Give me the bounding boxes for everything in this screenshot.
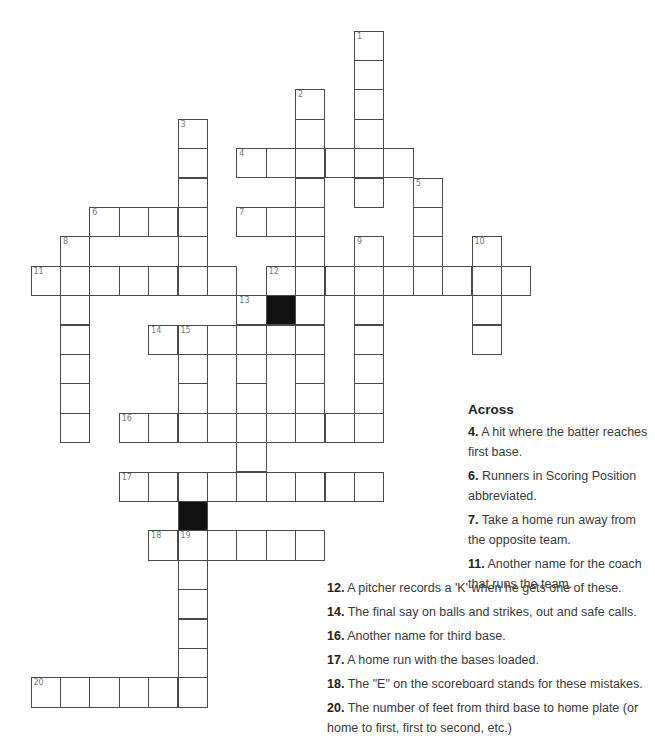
grid-cell[interactable] xyxy=(207,266,237,296)
grid-cell[interactable] xyxy=(236,530,266,560)
grid-cell[interactable] xyxy=(383,148,413,178)
grid-cell[interactable] xyxy=(178,619,208,649)
grid-cell[interactable] xyxy=(295,325,325,355)
grid-cell[interactable]: 11 xyxy=(31,266,61,296)
grid-cell[interactable] xyxy=(354,119,384,149)
grid-cell[interactable] xyxy=(178,354,208,384)
grid-cell[interactable]: 12 xyxy=(266,266,296,296)
grid-cell[interactable] xyxy=(236,442,266,472)
grid-cell[interactable] xyxy=(178,589,208,619)
grid-cell[interactable] xyxy=(295,354,325,384)
grid-cell[interactable] xyxy=(354,472,384,502)
grid-cell[interactable]: 16 xyxy=(119,413,149,443)
grid-cell[interactable] xyxy=(60,383,90,413)
grid-cell[interactable] xyxy=(266,325,296,355)
grid-cell[interactable] xyxy=(266,472,296,502)
grid-cell[interactable] xyxy=(236,383,266,413)
grid-cell[interactable]: 4 xyxy=(236,148,266,178)
grid-cell[interactable]: 3 xyxy=(178,119,208,149)
grid-cell[interactable] xyxy=(119,677,149,707)
grid-cell[interactable] xyxy=(178,413,208,443)
grid-cell[interactable] xyxy=(60,354,90,384)
grid-cell[interactable] xyxy=(148,472,178,502)
grid-cell[interactable] xyxy=(89,677,119,707)
grid-cell[interactable] xyxy=(354,266,384,296)
grid-cell[interactable] xyxy=(325,148,355,178)
grid-cell[interactable] xyxy=(119,207,149,237)
grid-cell[interactable] xyxy=(60,295,90,325)
grid-cell[interactable] xyxy=(472,325,502,355)
grid-cell[interactable] xyxy=(295,266,325,296)
grid-cell[interactable] xyxy=(178,648,208,678)
grid-cell[interactable] xyxy=(295,236,325,266)
grid-cell[interactable] xyxy=(236,413,266,443)
grid-cell[interactable] xyxy=(295,530,325,560)
grid-cell[interactable] xyxy=(178,178,208,208)
grid-cell[interactable] xyxy=(472,266,502,296)
grid-cell[interactable] xyxy=(60,413,90,443)
grid-cell[interactable] xyxy=(325,266,355,296)
grid-cell[interactable]: 8 xyxy=(60,236,90,266)
grid-cell[interactable] xyxy=(178,148,208,178)
grid-cell[interactable] xyxy=(354,60,384,90)
grid-cell[interactable] xyxy=(354,148,384,178)
grid-cell[interactable] xyxy=(295,383,325,413)
grid-cell[interactable] xyxy=(89,266,119,296)
grid-cell[interactable]: 1 xyxy=(354,31,384,61)
grid-cell[interactable] xyxy=(236,325,266,355)
grid-cell[interactable] xyxy=(119,266,149,296)
grid-cell[interactable]: 2 xyxy=(295,89,325,119)
grid-cell[interactable] xyxy=(207,325,237,355)
grid-cell[interactable] xyxy=(266,413,296,443)
grid-cell[interactable] xyxy=(354,383,384,413)
grid-cell[interactable] xyxy=(178,266,208,296)
grid-cell[interactable]: 17 xyxy=(119,472,149,502)
grid-cell[interactable] xyxy=(60,325,90,355)
grid-cell[interactable] xyxy=(148,266,178,296)
grid-cell[interactable] xyxy=(236,472,266,502)
grid-cell[interactable] xyxy=(442,266,472,296)
grid-cell[interactable] xyxy=(354,413,384,443)
grid-cell[interactable] xyxy=(236,354,266,384)
grid-cell[interactable] xyxy=(207,413,237,443)
grid-cell[interactable]: 6 xyxy=(89,207,119,237)
grid-cell[interactable] xyxy=(295,472,325,502)
grid-cell[interactable] xyxy=(354,325,384,355)
grid-cell[interactable] xyxy=(178,207,208,237)
grid-cell[interactable] xyxy=(325,472,355,502)
grid-cell[interactable] xyxy=(178,560,208,590)
grid-cell[interactable] xyxy=(295,178,325,208)
grid-cell[interactable] xyxy=(60,266,90,296)
grid-cell[interactable] xyxy=(354,178,384,208)
grid-cell[interactable] xyxy=(178,677,208,707)
grid-cell[interactable] xyxy=(354,295,384,325)
grid-cell[interactable] xyxy=(295,148,325,178)
grid-cell[interactable] xyxy=(295,207,325,237)
grid-cell[interactable] xyxy=(354,354,384,384)
grid-cell[interactable] xyxy=(501,266,531,296)
grid-cell[interactable] xyxy=(295,413,325,443)
grid-cell[interactable]: 14 xyxy=(148,325,178,355)
grid-cell[interactable] xyxy=(178,472,208,502)
grid-cell[interactable] xyxy=(413,207,443,237)
grid-cell[interactable] xyxy=(295,295,325,325)
grid-cell[interactable]: 9 xyxy=(354,236,384,266)
grid-cell[interactable]: 19 xyxy=(178,530,208,560)
grid-cell[interactable] xyxy=(295,119,325,149)
grid-cell[interactable] xyxy=(178,236,208,266)
grid-cell[interactable] xyxy=(60,677,90,707)
grid-cell[interactable] xyxy=(178,383,208,413)
grid-cell[interactable] xyxy=(413,236,443,266)
grid-cell[interactable] xyxy=(148,677,178,707)
grid-cell[interactable] xyxy=(413,266,443,296)
grid-cell[interactable]: 15 xyxy=(178,325,208,355)
grid-cell[interactable] xyxy=(354,89,384,119)
grid-cell[interactable] xyxy=(266,530,296,560)
grid-cell[interactable] xyxy=(148,207,178,237)
grid-cell[interactable]: 5 xyxy=(413,178,443,208)
grid-cell[interactable] xyxy=(325,413,355,443)
grid-cell[interactable] xyxy=(266,207,296,237)
grid-cell[interactable]: 20 xyxy=(31,677,61,707)
grid-cell[interactable] xyxy=(148,413,178,443)
grid-cell[interactable]: 18 xyxy=(148,530,178,560)
